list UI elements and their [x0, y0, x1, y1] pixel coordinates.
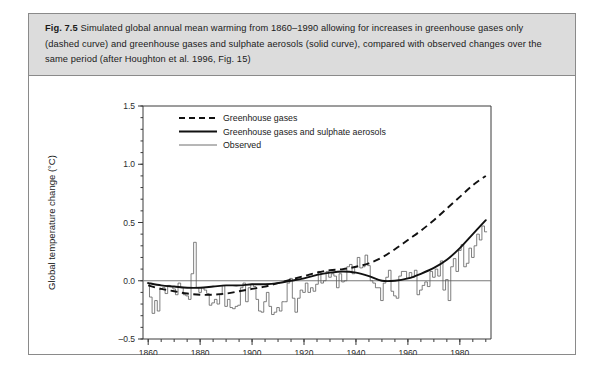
y-tick-label: 0.0 [123, 276, 135, 286]
x-tick-label: 1900 [243, 348, 262, 355]
figure-caption: Fig. 7.5 Simulated global annual mean wa… [29, 14, 575, 76]
figure-caption-text: Fig. 7.5 Simulated global annual mean wa… [45, 21, 559, 68]
x-tick-label: 1920 [295, 348, 314, 355]
y-tick-label: 1.5 [123, 101, 135, 111]
figure-caption-body: Simulated global annual mean warming fro… [45, 23, 542, 64]
plot-frame [143, 106, 491, 339]
x-tick-label: 1880 [191, 348, 210, 355]
x-tick-label: 1960 [398, 348, 417, 355]
legend-label-1: Greenhouse gases [223, 113, 298, 123]
figure-number: Fig. 7.5 [45, 23, 78, 33]
series-greenhouse-gases-and-sulphate-aerosols [148, 220, 486, 288]
legend-label-3: Observed [223, 140, 261, 150]
figure-container: Fig. 7.5 Simulated global annual mean wa… [28, 13, 576, 355]
legend-label-2: Greenhouse gases and sulphate aerosols [223, 127, 386, 137]
x-tick-label: 1940 [346, 348, 365, 355]
y-tick-label: 0.5 [123, 218, 135, 228]
plot-area: –0.50.00.51.01.5186018801900192019401960… [29, 76, 575, 354]
series-observed [147, 226, 487, 315]
temperature-change-chart: –0.50.00.51.01.5186018801900192019401960… [29, 76, 577, 355]
y-tick-label: 1.0 [123, 159, 135, 169]
y-tick-label: –0.5 [118, 334, 135, 344]
x-tick-label: 1860 [139, 348, 158, 355]
y-axis-title: Global temperature change (°C) [46, 155, 57, 290]
x-tick-label: 1980 [450, 348, 469, 355]
